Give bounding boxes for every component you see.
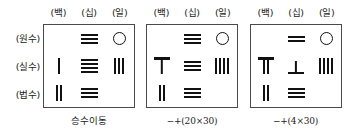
zero-circle-icon (320, 32, 333, 45)
horizontal-rods-3-icon (288, 88, 305, 98)
column-header-ones: (일) (207, 5, 238, 21)
panel-subtract-add-4x30: (백) (십) (일) (243, 0, 344, 137)
panel-caption: −+(4×30) (243, 112, 344, 130)
rod-grid (250, 24, 342, 108)
horizontal-rods-3-icon (184, 61, 201, 71)
grid-cell (251, 80, 281, 107)
horizontal-rods-3-icon (184, 88, 201, 98)
grid-cell (147, 52, 177, 79)
grid-cell (74, 52, 104, 79)
grid-cell (44, 25, 74, 52)
vertical-rods-2-icon (56, 85, 62, 101)
vertical-rods-4-icon (319, 58, 333, 74)
grid-cell (104, 25, 134, 52)
vertical-rods-2-icon (159, 85, 165, 101)
grid-cell (281, 25, 311, 52)
row-label-column: (원수) (실수) (법수) (0, 24, 43, 108)
grid-cell (44, 52, 74, 79)
grid-cell (207, 25, 237, 52)
horizontal-rods-4-icon (81, 59, 98, 73)
column-header-tens: (십) (74, 5, 105, 21)
grid-cell (311, 80, 341, 107)
grid-cell (74, 80, 104, 107)
row-label-silsu: (실수) (0, 52, 43, 80)
zero-circle-icon (113, 32, 126, 45)
row-label-wonsu: (원수) (0, 24, 43, 52)
grid-cell (251, 25, 281, 52)
zero-circle-icon (216, 32, 229, 45)
grid-cell (177, 80, 207, 107)
rod-grid (146, 24, 238, 108)
uptack-rod-icon (288, 58, 304, 74)
column-header-tens: (십) (281, 5, 312, 21)
rod-numeral-figure: (원수) (실수) (법수) (백) (십) (일) (0, 0, 344, 137)
grid-cell (281, 80, 311, 107)
vertical-rods-2-icon (263, 85, 269, 101)
grid-cell (147, 80, 177, 107)
vertical-rods-3-icon (114, 58, 124, 74)
grid-cell (147, 25, 177, 52)
column-header-ones: (일) (104, 5, 135, 21)
grid-cell (311, 25, 341, 52)
grid-cell (251, 52, 281, 79)
grid-cell (104, 52, 134, 79)
grid-cell (207, 80, 237, 107)
column-header-tens: (십) (177, 5, 208, 21)
column-header-hundreds: (백) (250, 5, 281, 21)
column-header-ones: (일) (311, 5, 342, 21)
grid-cell (177, 25, 207, 52)
column-header-hundreds: (백) (43, 5, 74, 21)
tee-rod-icon (154, 57, 170, 74)
column-header-row: (백) (십) (일) (250, 5, 342, 21)
vertical-rods-4-icon (215, 58, 229, 74)
horizontal-rods-3-icon (184, 34, 201, 44)
horizontal-rods-2-icon (288, 36, 305, 42)
grid-cell (207, 52, 237, 79)
panel-caption: −+(20×30) (140, 112, 244, 130)
column-header-row: (백) (십) (일) (146, 5, 238, 21)
tee-double-rod-icon (258, 57, 274, 74)
panel-multiplier-shift: (원수) (실수) (법수) (백) (십) (일) (0, 0, 137, 137)
panel-subtract-add-20x30: (백) (십) (일) (140, 0, 240, 137)
horizontal-rods-3-icon (81, 88, 98, 98)
horizontal-rods-3-icon (81, 34, 98, 44)
rod-grid (43, 24, 135, 108)
grid-cell (74, 25, 104, 52)
vertical-rods-1-icon (58, 58, 60, 74)
grid-cell (311, 52, 341, 79)
grid-cell (104, 80, 134, 107)
grid-cell (177, 52, 207, 79)
row-label-beopsu: (법수) (0, 80, 43, 108)
column-header-row: (백) (십) (일) (43, 5, 135, 21)
grid-cell (44, 80, 74, 107)
column-header-hundreds: (백) (146, 5, 177, 21)
grid-cell (281, 52, 311, 79)
panel-caption: 승수이동 (43, 112, 135, 130)
